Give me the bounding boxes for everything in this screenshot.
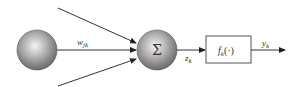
y-label: yk	[261, 38, 270, 50]
neuron-diagram: wjk Σ zk fk(·) yk	[0, 0, 300, 87]
z-label: zk	[184, 53, 193, 65]
input-node	[17, 30, 57, 70]
input-arrow-top	[58, 8, 136, 43]
input-arrow-bottom	[58, 59, 136, 86]
sigma-symbol: Σ	[152, 42, 162, 58]
weight-label: wjk	[77, 37, 89, 49]
